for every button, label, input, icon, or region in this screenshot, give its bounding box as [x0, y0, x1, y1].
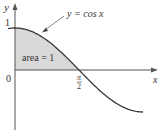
- curve-label: y = cos x: [66, 8, 104, 19]
- x-tick-label-2: 2: [77, 82, 81, 91]
- y-tick-label-1: 1: [5, 17, 10, 28]
- x-axis-arrow-icon: [151, 68, 158, 73]
- x-tick-label-pi: π: [77, 73, 82, 82]
- curve-label-text: y = cos x: [66, 8, 104, 19]
- cosine-area-chart: y 1 0 x π 2 y = cos x area = 1: [0, 0, 162, 133]
- curve-label-leader: [45, 16, 64, 30]
- area-label: area = 1: [22, 52, 54, 63]
- shaded-area-region: [15, 28, 79, 70]
- origin-label: 0: [6, 73, 11, 84]
- x-axis-label: x: [152, 74, 158, 85]
- y-axis-arrow-icon: [13, 3, 18, 10]
- y-axis-label: y: [3, 1, 9, 13]
